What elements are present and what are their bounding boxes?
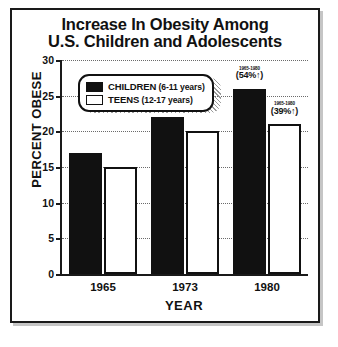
chart-title: Increase In Obesity Among U.S. Children … [12,16,318,50]
plot-area: 051015202530196519731965-1980(54%↑)1965-… [60,60,308,276]
bar-children-1973 [151,117,184,274]
legend-label: CHILDREN (6-11 years) [108,81,205,92]
y-axis-tick-label: 10 [42,197,54,209]
legend-label-age: (12-17 years) [139,95,193,105]
chart-legend: CHILDREN (6-11 years)TEENS (12-17 years) [78,74,214,112]
legend-label-age: (6-11 years) [156,82,204,92]
bar-teens-1973 [186,131,219,274]
annotation-delta: (54%↑) [227,71,272,80]
legend-item-teens: TEENS (12-17 years) [86,93,205,106]
x-axis-title: YEAR [60,298,308,313]
plot-inner: 051015202530196519731965-1980(54%↑)1965-… [62,60,308,274]
bar-annotation: 1965-1980(39%↑) [262,102,307,116]
chart-title-line-2: U.S. Children and Adolescents [12,33,318,50]
bar-teens-1980 [268,124,301,274]
legend-label: TEENS (12-17 years) [108,94,193,105]
legend-item-children: CHILDREN (6-11 years) [86,80,205,93]
y-axis-tick-label: 25 [42,90,54,102]
y-axis-tick-label: 30 [42,54,54,66]
y-axis-tick-label: 5 [48,232,54,244]
y-axis-tick-label: 0 [48,268,54,280]
chart-title-line-1: Increase In Obesity Among [12,16,318,33]
bar-group: 1965-1980(54%↑)1965-1980(39%↑)1980 [226,60,308,274]
y-axis-title: PERCENT OBESE [29,50,44,210]
legend-swatch-teens [86,95,103,105]
x-axis-tick-label: 1973 [172,281,198,293]
bar-annotation: 1965-1980(54%↑) [227,67,272,81]
annotation-delta: (39%↑) [262,107,307,116]
x-axis-tick-label: 1965 [90,281,116,293]
y-axis-tick-label: 20 [42,125,54,137]
bar-teens-1965 [104,167,137,274]
chart-poster: Increase In Obesity Among U.S. Children … [10,8,320,323]
y-axis-tick-label: 15 [42,161,54,173]
y-axis-tick [56,274,62,276]
bar-children-1965 [69,153,102,274]
legend-swatch-children [86,82,103,92]
x-axis-tick-label: 1980 [254,281,280,293]
